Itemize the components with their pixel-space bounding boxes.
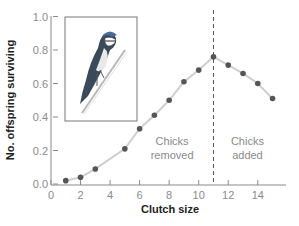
y-tick-label: 0.8 bbox=[33, 44, 48, 56]
annotation-text: added bbox=[232, 149, 263, 161]
y-ticks: 0.00.20.40.60.81.0 bbox=[33, 11, 58, 191]
y-tick-label: 0.4 bbox=[33, 111, 48, 123]
data-point bbox=[166, 97, 172, 103]
y-tick-label: 0.6 bbox=[33, 78, 48, 90]
data-point bbox=[270, 96, 276, 102]
annotation-text: removed bbox=[151, 149, 194, 161]
y-tick-label: 0.0 bbox=[33, 178, 48, 190]
y-tick-label: 1.0 bbox=[33, 11, 48, 23]
data-point bbox=[137, 126, 143, 132]
data-point bbox=[93, 166, 99, 172]
x-tick-label: 2 bbox=[77, 189, 83, 201]
x-tick-label: 8 bbox=[166, 189, 172, 201]
data-point bbox=[122, 146, 128, 152]
data-point bbox=[196, 67, 202, 73]
x-axis-title: Clutch size bbox=[141, 203, 199, 215]
data-point bbox=[152, 113, 158, 119]
x-tick-label: 6 bbox=[137, 189, 143, 201]
x-tick-label: 14 bbox=[252, 189, 264, 201]
x-tick-label: 12 bbox=[222, 189, 234, 201]
x-ticks: 02468101214 bbox=[48, 180, 264, 201]
data-point bbox=[78, 175, 84, 181]
data-point bbox=[240, 71, 246, 77]
data-point bbox=[255, 81, 261, 87]
annotation-text: Chicks bbox=[231, 135, 265, 147]
x-tick-label: 10 bbox=[193, 189, 205, 201]
x-tick-label: 4 bbox=[107, 189, 113, 201]
x-tick-label: 0 bbox=[48, 189, 54, 201]
y-tick-label: 0.2 bbox=[33, 145, 48, 157]
annotations: ChicksremovedChicksadded bbox=[151, 135, 265, 161]
data-point bbox=[225, 62, 231, 68]
clutch-size-chart: 0.00.20.40.60.81.0 02468101214 Chicksrem… bbox=[0, 0, 299, 226]
y-axis-title: No. offspring surviving bbox=[4, 40, 16, 160]
data-point bbox=[211, 54, 217, 60]
data-point bbox=[63, 178, 69, 184]
annotation-text: Chicks bbox=[156, 135, 190, 147]
data-point bbox=[181, 79, 187, 85]
bird-inset bbox=[65, 17, 137, 121]
